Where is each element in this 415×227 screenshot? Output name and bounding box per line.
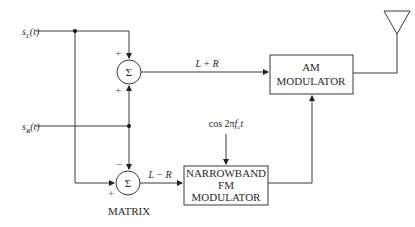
nbfm-modulator-block: NARROWBAND FM MODULATOR [184, 166, 268, 205]
am-modulator-line-2: MODULATOR [277, 75, 347, 87]
sigma-icon: Σ [126, 66, 132, 78]
nbfm-modulator-line-2: FM [218, 179, 234, 191]
lower-summer: Σ − + [108, 158, 140, 199]
junction-dot-sr [127, 124, 131, 128]
input-left-suffix: (t) [30, 26, 40, 38]
wire-am-to-antenna [353, 34, 397, 73]
upper-summer-sign-top: + [115, 47, 121, 59]
l-minus-r-label: L − R [147, 169, 171, 180]
lower-summer-sign-left: + [108, 187, 114, 199]
upper-summer: Σ + + [115, 47, 141, 96]
sigma-icon: Σ [125, 177, 131, 189]
carrier-t: t [241, 118, 244, 129]
matrix-label: MATRIX [108, 205, 150, 217]
nbfm-modulator-line-3: MODULATOR [192, 191, 262, 203]
input-right-label: sR(t) [22, 121, 40, 135]
am-modulator-block: AM MODULATOR [270, 55, 353, 94]
upper-summer-sign-bottom: + [115, 84, 121, 96]
wire-nbfm-to-am [268, 96, 312, 183]
junction-dot-sl [73, 29, 77, 33]
am-modulator-line-1: AM [302, 61, 320, 73]
lower-summer-sign-top: − [116, 158, 122, 170]
nbfm-modulator-line-1: NARROWBAND [186, 167, 266, 179]
l-plus-r-label: L + R [194, 58, 218, 69]
carrier-label: cos 2πfct [209, 118, 244, 131]
input-left-label: sL(t) [22, 26, 40, 40]
antenna-icon [384, 11, 410, 34]
carrier-prefix: cos 2π [209, 118, 235, 129]
input-right-suffix: (t) [30, 121, 40, 133]
wire-sl-to-lower-sum [75, 31, 114, 183]
stereo-transmitter-diagram: sL(t) sR(t) Σ + + L + R Σ − + L − R MATR… [0, 0, 415, 227]
